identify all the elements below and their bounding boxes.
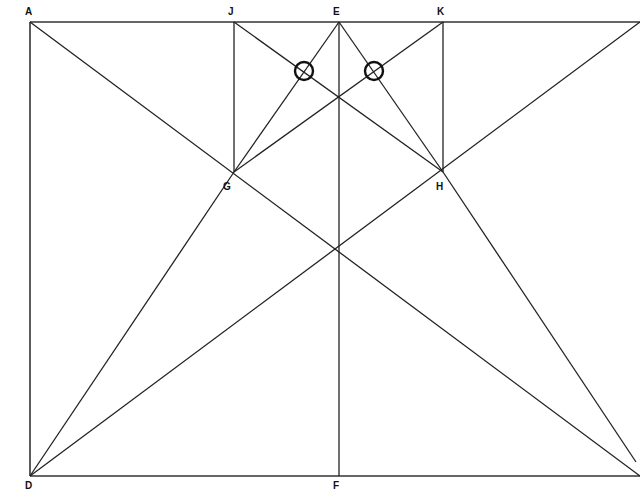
segment-e-g (234, 22, 339, 172)
point-label-h: H (436, 181, 443, 192)
lines-group (30, 22, 640, 476)
point-label-k: K (437, 6, 445, 17)
point-label-e: E (333, 6, 340, 17)
segment-h-br2 (443, 172, 636, 462)
point-label-j: J (228, 6, 234, 17)
geometric-diagram: A J E K G H D F (0, 0, 640, 495)
point-label-a: A (25, 6, 32, 17)
labels-group: A J E K G H D F (25, 6, 445, 491)
point-label-f: F (333, 480, 339, 491)
segment-g-d (30, 172, 234, 476)
point-label-d: D (25, 480, 32, 491)
point-label-g: G (223, 181, 231, 192)
segment-e-h (339, 22, 443, 172)
